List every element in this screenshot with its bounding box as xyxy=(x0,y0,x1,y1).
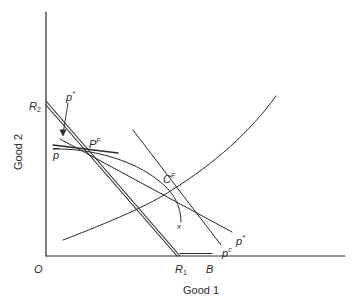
curve-x xyxy=(53,149,181,222)
label-pf: PF xyxy=(89,137,101,150)
label-b: B xyxy=(206,264,213,275)
label-curve-x: x xyxy=(177,223,181,231)
x-axis-label: Good 1 xyxy=(183,285,219,296)
label-r1: R1 xyxy=(175,264,187,276)
offer-curve xyxy=(63,96,276,240)
label-p-bar: p xyxy=(53,150,59,161)
label-p-star-top: p* xyxy=(66,90,75,103)
label-r2: R2 xyxy=(29,101,41,113)
r2-r1-line-a xyxy=(46,101,180,256)
y-axis-label: Good 2 xyxy=(13,134,24,170)
p-star-line xyxy=(60,139,232,232)
label-origin: O xyxy=(34,264,43,275)
r2-r1-line-b xyxy=(46,105,177,256)
label-cf: CF xyxy=(163,172,175,185)
label-p-c: pc xyxy=(222,246,232,259)
p-star-arrow-head xyxy=(60,130,66,136)
label-p-star-right: p* xyxy=(236,234,245,247)
